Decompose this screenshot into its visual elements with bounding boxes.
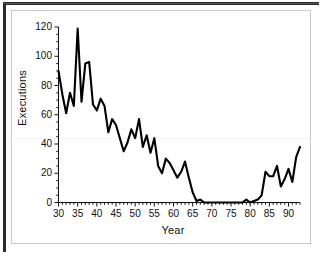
x-tick-label: 70 bbox=[202, 208, 222, 219]
y-axis-ticks bbox=[55, 27, 59, 203]
x-tick-label: 90 bbox=[279, 208, 299, 219]
y-axis-title: Executions bbox=[16, 58, 28, 138]
x-tick-label: 30 bbox=[49, 208, 69, 219]
x-tick-label: 55 bbox=[144, 208, 164, 219]
y-tick-label: 80 bbox=[26, 80, 52, 91]
y-tick-label: 0 bbox=[26, 197, 52, 208]
y-tick-label: 100 bbox=[26, 50, 52, 61]
y-tick-label: 120 bbox=[26, 21, 52, 32]
y-tick-label: 40 bbox=[26, 138, 52, 149]
x-tick-label: 35 bbox=[68, 208, 88, 219]
x-tick-label: 50 bbox=[125, 208, 145, 219]
y-tick-label: 60 bbox=[26, 109, 52, 120]
x-tick-label: 65 bbox=[183, 208, 203, 219]
x-tick-label: 75 bbox=[221, 208, 241, 219]
x-axis-title: Year bbox=[58, 224, 288, 236]
line-chart: Executions Year 020406080100120 30354045… bbox=[0, 0, 322, 254]
x-tick-label: 45 bbox=[106, 208, 126, 219]
x-tick-label: 80 bbox=[240, 208, 260, 219]
x-tick-label: 85 bbox=[259, 208, 279, 219]
x-axis-ticks bbox=[59, 203, 301, 207]
x-tick-label: 40 bbox=[87, 208, 107, 219]
executions-series-line bbox=[59, 28, 301, 202]
y-tick-label: 20 bbox=[26, 167, 52, 178]
x-tick-label: 60 bbox=[164, 208, 184, 219]
scanned-figure-page: Executions Year 020406080100120 30354045… bbox=[0, 0, 322, 254]
